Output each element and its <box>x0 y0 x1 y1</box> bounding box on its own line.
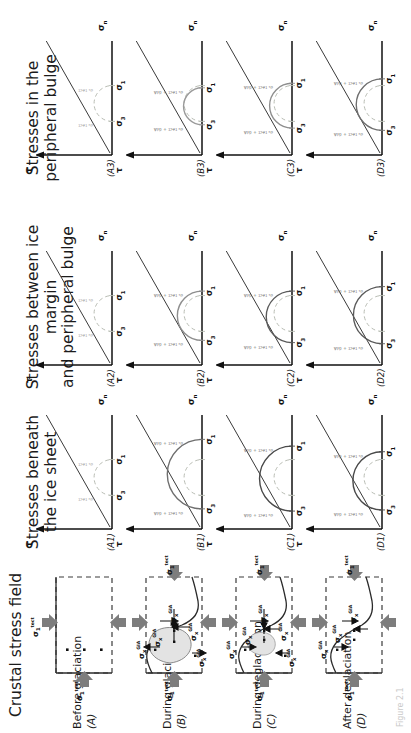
figure-caption: Figure 2.1 <box>396 687 405 727</box>
axis-label-tau: τ <box>24 378 34 383</box>
axis-label-tau: τ <box>294 542 304 547</box>
axis-label-sigma-n: σn <box>96 394 108 405</box>
mohr-panel-b3: (B3)τσnσ3σ1σ₃ tect + GIAσ₁ tect + GIA <box>126 41 216 181</box>
stress-label-sigma-x-gia-B-2: σxGIA <box>168 605 179 623</box>
axis-label-sigma-n: σn <box>186 230 198 241</box>
annotation-sigma3-d3: σ₃ tect + GIA <box>334 132 363 137</box>
panel-id-d2: (D2) <box>376 368 386 387</box>
crustal-cartoon-C <box>220 565 308 687</box>
annotation-sigma1-c2: σ₁ tect + GIA <box>244 293 273 298</box>
tick-label-sigma3: σ3 <box>205 504 216 514</box>
axis-label-tau: τ <box>294 378 304 383</box>
mohr-circle-tectonic <box>364 296 382 332</box>
crustal-cartoon-D <box>310 565 398 687</box>
row-letter-text: (A) <box>85 714 97 729</box>
annotation-sigma1-a1: σ₁ tect <box>78 462 93 467</box>
row-letter-text: (B) <box>175 714 187 729</box>
tick-label-sigma1: σ1 <box>205 83 216 93</box>
stress-label-sigma1-tect-B-right: σ1tect <box>164 555 175 575</box>
axis-label-sigma-n: σn <box>186 394 198 405</box>
axis-label-tau: τ <box>114 168 124 173</box>
axis-label-sigma-n: σn <box>276 20 288 31</box>
stress-label-sigma-x-gia-C-3: σxGIA <box>278 623 289 641</box>
annotation-sigma3-c2: σ₃ tect + GIA <box>244 345 273 350</box>
mohr-panel-b2: (B2)τσnσ3σ1σ₃ tect + GIAσ₁ tect + GIA <box>126 251 216 391</box>
annotation-sigma3-a3: σ₃ tect <box>78 123 93 128</box>
tick-label-sigma1: σ1 <box>385 282 396 292</box>
tick-label-sigma3: σ3 <box>295 338 306 348</box>
axis-label-tau: τ <box>114 378 124 383</box>
mohr-panel-c1: (C1)τσnσ3σ1σ₃ tect + GIAσ₁ tect + GIA <box>216 415 306 555</box>
mohr-circle-tectonic <box>184 296 202 332</box>
annotation-sigma3-c3: σ₃ tect + GIA <box>244 130 273 135</box>
mohr-circle-tectonic <box>184 460 202 496</box>
annotation-sigma1-d1: σ₁ tect + GIA <box>334 454 363 459</box>
tick-label-sigma1: σ1 <box>385 74 396 84</box>
panel-id-d1: (D1) <box>376 532 386 551</box>
tick-label-sigma1: σ1 <box>115 291 126 301</box>
annotation-sigma1-a2: σ₁ tect <box>78 298 93 303</box>
mohr-circle-tectonic <box>364 86 382 122</box>
mohr-circle-tectonic-plus-gia <box>356 79 382 131</box>
stress-label-sigma1-tect-A-top: σ1tect <box>30 617 41 637</box>
mohr-panel-d3: (D3)τσnσ3σ1σ₃ tect + GIAσ₁ tect + GIA <box>306 41 396 181</box>
stress-label-sigma-x-gia-D-1: σxGIA <box>332 625 343 643</box>
mohr-panel-a3: (A3)τσnσ3σ1σ₃ tectσ₁ tect <box>36 41 126 181</box>
tick-label-sigma3: σ3 <box>115 490 126 500</box>
panel-id-d3: (D3) <box>376 158 386 177</box>
stress-label-sigma1-tect-A-left: σ1tect <box>74 681 85 701</box>
stress-label-sigma-x-gia-C-4: σxGIA <box>226 641 237 659</box>
tick-label-sigma3: σ3 <box>385 505 396 515</box>
axis-label-sigma-n: σn <box>186 20 198 31</box>
stress-label-sigma-x-gia-B-1: σxGIA <box>152 629 163 647</box>
annotation-sigma1-c3: σ₁ tect + GIA <box>244 85 273 90</box>
axis-label-sigma-n: σn <box>366 230 378 241</box>
tick-label-sigma1: σ1 <box>205 286 216 296</box>
tick-label-sigma3: σ3 <box>205 120 216 130</box>
axis-label-sigma-n: σn <box>276 230 288 241</box>
mohr-circle-tectonic <box>94 460 112 496</box>
mohr-panel-a2: (A2)τσnσ3σ1σ₃ tectσ₁ tect <box>36 251 126 391</box>
stress-label-sigma-x-gia-C-5: σxGIA <box>286 649 297 667</box>
axis-label-sigma-n: σn <box>366 394 378 405</box>
axis-label-sigma-n: σn <box>366 20 378 31</box>
annotation-sigma3-b3: σ₃ tect + GIA <box>154 127 183 132</box>
stress-label-sigma1-tect-D-right: σ1tect <box>344 555 355 575</box>
stress-label-sigma-x-gia-C-2: σxGIA <box>258 605 269 623</box>
annotation-sigma1-b2: σ₁ tect + GIA <box>154 293 183 298</box>
tick-label-sigma1: σ1 <box>115 81 126 91</box>
mohr-circle-tectonic-plus-gia <box>266 291 292 343</box>
stress-label-sigma1-tect-D-left: σ1tect <box>344 681 355 701</box>
mohr-panel-b1: (B1)τσnσ3σ1σ₃ tect + GIAσ₁ tect + GIA <box>126 415 216 555</box>
mohr-panel-d1: (D1)τσnσ3σ1σ₃ tect + GIAσ₁ tect + GIA <box>306 415 396 555</box>
axis-label-tau: τ <box>294 168 304 173</box>
tick-label-sigma1: σ1 <box>295 78 306 88</box>
axis-label-tau: τ <box>204 378 214 383</box>
annotation-sigma1-b3: σ₁ tect + GIA <box>154 90 183 95</box>
annotation-sigma3-b2: σ₃ tect + GIA <box>154 342 183 347</box>
stress-label-sigma1-tect-C-right: σ1tect <box>254 555 265 575</box>
stress-label-sigma-x-gia-B-5: σxGIA <box>196 649 207 667</box>
mohr-circle-tectonic <box>94 86 112 122</box>
annotation-sigma1-d3: σ₁ tect + GIA <box>334 81 363 86</box>
mohr-circle-tectonic <box>364 460 382 496</box>
mohr-circle-tectonic <box>274 460 292 496</box>
stress-label-sigma1-tect-B-left: σ1tect <box>164 681 175 701</box>
stress-label-sigma-x-gia-D-2: σxGIA <box>348 605 359 623</box>
mohr-panel-a1: (A1)τσnσ3σ1σ₃ tectσ₁ tect <box>36 415 126 555</box>
tick-label-sigma1: σ1 <box>205 434 216 444</box>
annotation-sigma3-d2: σ₃ tect + GIA <box>334 346 363 351</box>
annotation-sigma1-b1: σ₁ tect + GIA <box>154 441 183 446</box>
axis-label-sigma-n: σn <box>96 20 108 31</box>
annotation-sigma3-a1: σ₃ tect <box>78 497 93 502</box>
mohr-circle-tectonic <box>274 296 292 332</box>
tick-label-sigma3: σ3 <box>385 339 396 349</box>
stress-label-sigma-x-gia-D-3: σxGIA <box>318 641 329 659</box>
tick-label-sigma3: σ3 <box>295 506 306 516</box>
tick-label-sigma3: σ3 <box>385 125 396 135</box>
column-header-crustal-label: Crustal stress field <box>7 573 25 717</box>
annotation-sigma3-a2: σ₃ tect <box>78 333 93 338</box>
tick-label-sigma1: σ1 <box>295 441 306 451</box>
axis-label-sigma-n: σn <box>276 394 288 405</box>
annotation-sigma3-d1: σ₃ tect + GIA <box>334 512 363 517</box>
